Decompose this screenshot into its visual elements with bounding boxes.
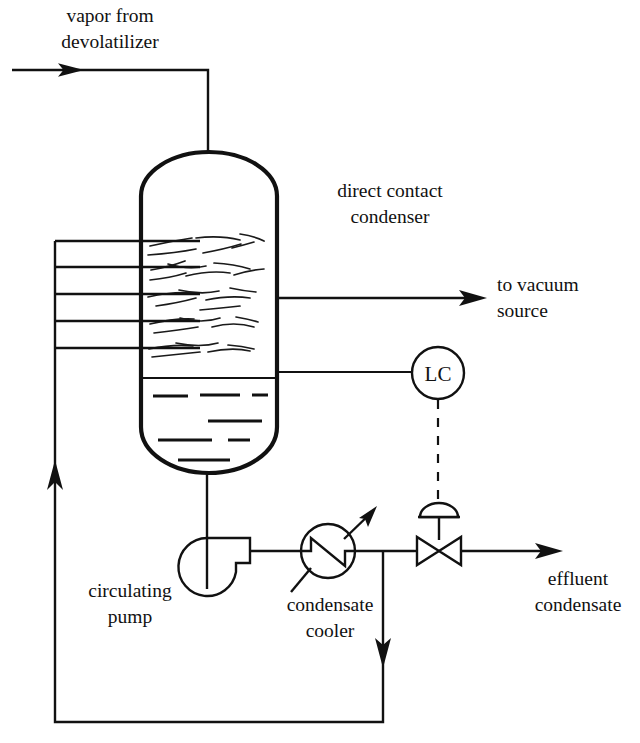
label-condenser-line2: condenser (350, 206, 430, 227)
label-vapor-from-line2: devolatilizer (61, 31, 159, 52)
controller-tag-text: LC (425, 362, 452, 386)
diagram-canvas: vapor from devolatilizer (0, 0, 640, 743)
level-controller-bubble[interactable]: LC (277, 347, 464, 399)
label-pump-line1: circulating (88, 580, 172, 601)
stream-effluent-condensate: effluent condensate (461, 543, 621, 615)
label-vapor-from-line1: vapor from (66, 5, 153, 26)
level-control-valve[interactable] (414, 503, 461, 565)
stream-vapor-from-devolatilizer: vapor from devolatilizer (12, 5, 208, 166)
process-flow-diagram: vapor from devolatilizer (0, 0, 640, 743)
stream-to-vacuum-source: to vacuum source (277, 274, 579, 321)
label-cooler-line1: condensate (287, 594, 374, 615)
circulating-pump[interactable]: circulating pump (88, 538, 302, 627)
valve-body-right[interactable] (439, 537, 461, 565)
label-vacuum-line2: source (497, 300, 548, 321)
valve-actuator-diaphragm (420, 503, 458, 517)
valve-body-left[interactable] (417, 537, 439, 565)
label-pump-line2: pump (108, 606, 152, 627)
label-effluent-line2: condensate (535, 594, 622, 615)
label-condenser-line1: direct contact (337, 180, 443, 201)
label-effluent-line1: effluent (548, 568, 609, 589)
condensate-cooler[interactable]: condensate cooler (287, 506, 377, 641)
label-vacuum-line1: to vacuum (497, 274, 579, 295)
label-cooler-line2: cooler (306, 620, 355, 641)
cooler-arrow-out (359, 506, 377, 527)
direct-contact-condenser-vessel (141, 152, 277, 473)
